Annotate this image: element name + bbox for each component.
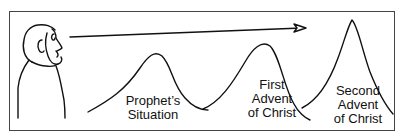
label-line: Advent xyxy=(326,98,390,112)
label-line: Prophet’s xyxy=(118,94,188,108)
label-first-advent: First Advent of Christ xyxy=(240,78,304,120)
label-second-advent: Second Advent of Christ xyxy=(326,84,390,126)
label-line: of Christ xyxy=(240,106,304,120)
label-line: Second xyxy=(326,84,390,98)
prophet-figure-icon xyxy=(18,25,65,118)
label-line: Situation xyxy=(118,108,188,122)
prophetic-perspective-diagram: Prophet’s Situation First Advent of Chri… xyxy=(0,0,405,140)
label-line: of Christ xyxy=(326,112,390,126)
label-line: Advent xyxy=(240,92,304,106)
line-of-sight-arrow-icon xyxy=(70,24,306,37)
label-line: First xyxy=(240,78,304,92)
label-prophets-situation: Prophet’s Situation xyxy=(118,94,188,122)
